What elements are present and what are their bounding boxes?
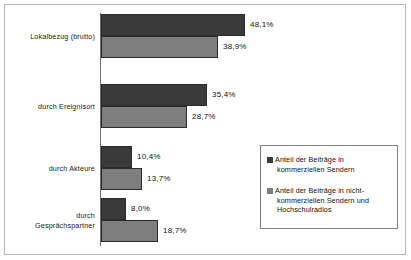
legend-commercial-line-1: Anteil der Beiträge in [275, 155, 344, 164]
legend-swatch-noncommercial-icon [267, 188, 273, 194]
category-label-line-1: durch [76, 211, 95, 220]
category-label-durch-gespraechspartner: durch Gesprächspartner [8, 211, 95, 230]
legend-noncommercial-line-1: Anteil der Beiträge in nicht- [275, 186, 364, 195]
legend-entry-commercial[interactable]: Anteil der Beiträge in kommerziellen Sen… [267, 155, 395, 174]
category-label-durch-akteure: durch Akteure [8, 164, 95, 174]
bar-ereignisort-noncommercial[interactable] [101, 106, 187, 128]
legend-noncommercial-line-3: Hochschulradios [275, 205, 395, 215]
bar-lokalbezug-noncommercial[interactable] [101, 36, 218, 58]
bar-gespraechspartner-commercial[interactable] [101, 198, 126, 220]
bar-lokalbezug-commercial[interactable] [101, 14, 245, 36]
category-label-durch-ereignisort: durch Ereignisort [8, 102, 95, 112]
bar-row-ereignisort-noncommercial: 28,7% [101, 106, 401, 128]
bar-akteure-commercial[interactable] [101, 146, 132, 168]
bar-akteure-noncommercial[interactable] [101, 168, 142, 190]
chart-legend: Anteil der Beiträge in kommerziellen Sen… [260, 145, 398, 229]
legend-swatch-commercial-icon [267, 157, 273, 163]
bar-value-gespraechspartner-noncommercial: 18,7% [163, 220, 187, 242]
bar-value-akteure-commercial: 10,4% [137, 146, 161, 168]
bar-row-ereignisort-commercial: 35,4% [101, 84, 401, 106]
bar-value-gespraechspartner-commercial: 8,0% [131, 198, 150, 220]
bar-value-lokalbezug-commercial: 48,1% [250, 14, 274, 36]
bar-gespraechspartner-noncommercial[interactable] [101, 220, 158, 242]
legend-noncommercial-line-2: kommerziellen Sendern und [275, 196, 395, 206]
category-label-line-2: Gesprächspartner [35, 221, 95, 230]
legend-entry-noncommercial[interactable]: Anteil der Beiträge in nicht- kommerziel… [267, 186, 395, 215]
bar-value-lokalbezug-noncommercial: 38,9% [223, 36, 247, 58]
bar-group-durch-ereignisort: durch Ereignisort 35,4% 28,7% [0, 84, 411, 130]
bar-ereignisort-commercial[interactable] [101, 84, 207, 106]
plot-area: Lokalbezug (brutto) 48,1% 38,9% durch Er… [0, 0, 411, 260]
category-label-lokalbezug-brutto: Lokalbezug (brutto) [8, 32, 95, 42]
bar-value-akteure-noncommercial: 13,7% [147, 168, 171, 190]
bar-row-lokalbezug-commercial: 48,1% [101, 14, 401, 36]
legend-label-noncommercial: Anteil der Beiträge in nicht- kommerziel… [275, 186, 395, 215]
bar-value-ereignisort-noncommercial: 28,7% [192, 106, 216, 128]
legend-label-commercial: Anteil der Beiträge in kommerziellen Sen… [275, 155, 395, 174]
bar-row-lokalbezug-noncommercial: 38,9% [101, 36, 401, 58]
bar-chart-figure: Lokalbezug (brutto) 48,1% 38,9% durch Er… [0, 0, 411, 260]
bar-value-ereignisort-commercial: 35,4% [212, 84, 236, 106]
bar-group-lokalbezug-brutto: Lokalbezug (brutto) 48,1% 38,9% [0, 14, 411, 60]
legend-commercial-line-2: kommerziellen Sendern [275, 165, 395, 175]
